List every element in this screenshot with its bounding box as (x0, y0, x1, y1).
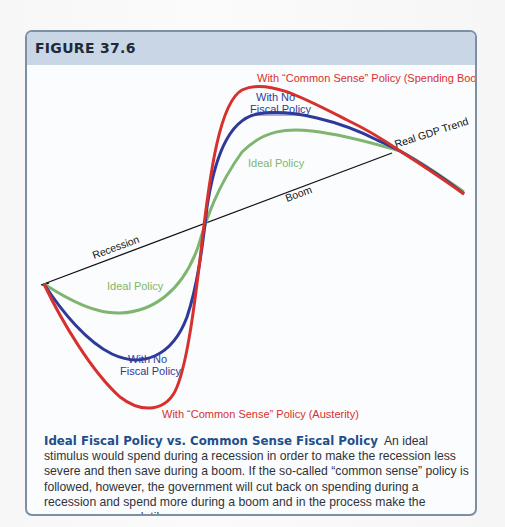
figure-caption: Ideal Fiscal Policy vs. Common Sense Fis… (44, 434, 469, 516)
caption-title: Ideal Fiscal Policy vs. Common Sense Fis… (44, 434, 378, 448)
label-no-policy-top-2: Fiscal Policy (250, 103, 312, 115)
label-boom: Boom (284, 183, 314, 204)
label-real-gdp-trend: Real GDP Trend (393, 115, 470, 150)
no-policy-curve (44, 113, 464, 360)
label-ideal-bottom: Ideal Policy (107, 280, 164, 292)
label-ideal-top: Ideal Policy (248, 157, 305, 169)
real-gdp-trend-line (41, 153, 392, 285)
figure-box: FIGURE 37.6 With “Common Sense” Policy (… (25, 30, 477, 516)
label-common-sense-boom: With “Common Sense” Policy (Spending Boo… (257, 72, 477, 84)
label-no-policy-bottom-1: With No (128, 353, 167, 365)
fiscal-policy-chart: With “Common Sense” Policy (Spending Boo… (27, 32, 477, 432)
label-common-sense-austerity: With “Common Sense” Policy (Austerity) (162, 408, 359, 420)
label-no-policy-top-1: With No (256, 91, 295, 103)
label-no-policy-bottom-2: Fiscal Policy (120, 365, 182, 377)
